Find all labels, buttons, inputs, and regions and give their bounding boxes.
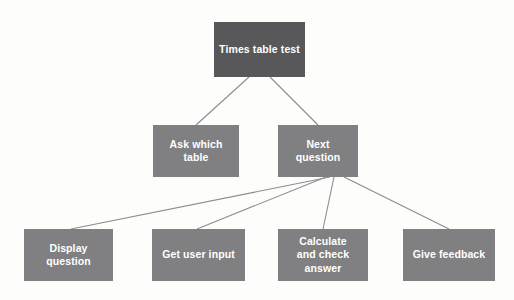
node-ask-which-table[interactable]: Ask which table xyxy=(153,125,239,177)
node-next-question[interactable]: Next question xyxy=(278,125,358,177)
node-give-feedback[interactable]: Give feedback xyxy=(403,229,495,281)
node-label: Next question xyxy=(278,138,358,164)
node-label: Display question xyxy=(24,242,113,268)
connector-next-question-to-display-question xyxy=(71,177,330,229)
node-label: Give feedback xyxy=(408,248,491,261)
connector-next-question-to-give-feedback xyxy=(344,177,449,229)
node-label: Times table test xyxy=(214,43,305,56)
connector-next-question-to-calculate-and-check-answer xyxy=(323,177,334,229)
connector-next-question-to-get-user-input xyxy=(197,177,326,229)
node-calculate-and-check-answer[interactable]: Calculate and check answer xyxy=(278,229,368,281)
node-label: Ask which table xyxy=(153,138,239,164)
node-get-user-input[interactable]: Get user input xyxy=(152,229,245,281)
node-display-question[interactable]: Display question xyxy=(24,229,113,281)
connector-root-to-ask-which-table xyxy=(196,77,249,125)
connector-root-to-next-question xyxy=(270,77,318,125)
node-times-table-test[interactable]: Times table test xyxy=(214,22,305,77)
flowchart-diagram: Times table test Ask which table Next qu… xyxy=(0,0,514,300)
node-label: Calculate and check answer xyxy=(278,235,368,274)
node-label: Get user input xyxy=(157,248,240,261)
